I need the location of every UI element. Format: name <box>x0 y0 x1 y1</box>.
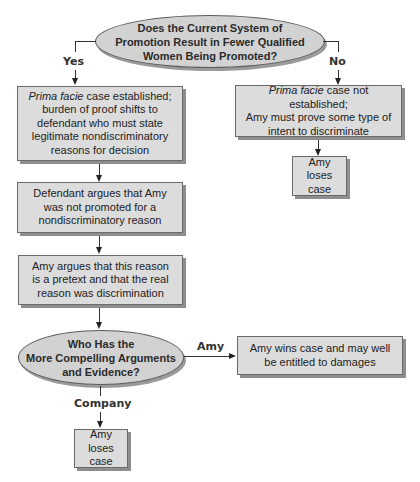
decision1-line: Women Being Promoted? <box>115 49 304 63</box>
company-label: Company <box>74 397 131 410</box>
amy-loses-case-box-company: Amy loses case <box>74 429 128 468</box>
decision2-line: More Compelling Arguments <box>26 351 176 365</box>
connector-no-horizontal <box>323 41 339 42</box>
box-text: loses case <box>77 442 125 469</box>
amy-wins-case-box: Amy wins case and may well be entitled t… <box>237 336 403 375</box>
box-text: Amy wins case and may well <box>250 342 391 356</box>
prima-facie-italic: Prima facie <box>28 90 83 102</box>
box-text: defendant who must state <box>28 117 171 131</box>
connector <box>99 308 100 323</box>
connector-amy-horizontal <box>184 356 230 357</box>
connector-no-vertical-top <box>338 41 339 52</box>
arrow-down-icon <box>96 322 102 329</box>
box-text: reason was discrimination <box>32 287 169 301</box>
decision1-line: Does the Current System of <box>115 21 304 35</box>
amy-label: Amy <box>197 340 224 353</box>
prima-facie-italic: Prima facie <box>269 84 324 96</box>
decision-promotion-question: Does the Current System of Promotion Res… <box>95 15 325 68</box>
box-text: legitimate nondiscriminatory <box>28 130 171 144</box>
amy-loses-case-box-no-branch: Amy loses case <box>292 156 347 196</box>
decision2-line: Who Has the <box>26 337 176 351</box>
connector-company-vertical-top <box>100 386 101 396</box>
box-text: burden of proof shifts to <box>28 103 171 117</box>
prima-facie-established-box: Prima facie case established; burden of … <box>17 86 183 161</box>
box-text: be entitled to damages <box>250 356 391 370</box>
prima-facie-not-established-box: Prima facie case not established; Amy mu… <box>235 85 402 137</box>
box-text: case established; <box>83 90 171 102</box>
box-text: nondiscriminatory reason <box>33 214 166 228</box>
decision2-line: and Evidence? <box>26 365 176 379</box>
no-label: No <box>329 55 346 68</box>
box-text: Defendant argues that Amy <box>33 187 166 201</box>
decision1-line: Promotion Result in Fewer Qualified <box>115 35 304 49</box>
box-text: is a pretext and that the real <box>32 273 169 287</box>
arrow-right-icon <box>229 353 236 359</box>
box-text: Amy <box>295 156 344 170</box>
arrow-down-icon <box>97 421 103 428</box>
defendant-argues-box: Defendant argues that Amy was not promot… <box>17 182 183 233</box>
decision-compelling-arguments: Who Has the More Compelling Arguments an… <box>18 330 184 385</box>
box-text: Amy <box>77 428 125 442</box>
box-text: reasons for decision <box>28 144 171 158</box>
box-text: was not promoted for a <box>33 201 166 215</box>
box-text: loses case <box>295 169 344 196</box>
connector-yes-vertical-top <box>75 41 76 52</box>
arrow-down-icon <box>96 175 102 182</box>
connector-yes-horizontal <box>75 41 96 42</box>
box-text: Amy must prove some type of <box>242 111 395 125</box>
arrow-down-icon <box>72 78 78 85</box>
box-text: Amy argues that this reason <box>32 260 169 274</box>
box-text: intent to discriminate <box>242 125 395 139</box>
amy-argues-pretext-box: Amy argues that this reason is a pretext… <box>18 255 183 305</box>
yes-label: Yes <box>63 55 84 68</box>
arrow-down-icon <box>96 247 102 254</box>
